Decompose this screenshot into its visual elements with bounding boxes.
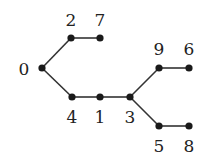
node-8 (185, 122, 192, 129)
node-label-6: 6 (184, 39, 195, 59)
node-label-9: 9 (154, 39, 165, 59)
node-0 (38, 64, 45, 71)
node-label-1: 1 (95, 107, 106, 127)
labels: 0274139658 (19, 10, 195, 156)
edges (42, 38, 189, 126)
node-4 (68, 93, 75, 100)
node-label-3: 3 (125, 107, 136, 127)
tree-diagram: 0274139658 (0, 0, 209, 158)
node-label-2: 2 (66, 10, 77, 30)
node-7 (96, 34, 103, 41)
node-1 (96, 93, 103, 100)
node-label-4: 4 (67, 107, 78, 127)
node-label-0: 0 (19, 59, 30, 79)
node-label-5: 5 (154, 136, 165, 156)
node-6 (185, 64, 192, 71)
node-3 (126, 93, 133, 100)
node-2 (67, 34, 74, 41)
edge-3-9 (130, 68, 159, 97)
node-5 (155, 122, 162, 129)
edge-0-4 (42, 68, 72, 97)
edge-0-2 (42, 38, 71, 68)
node-label-8: 8 (184, 136, 195, 156)
node-9 (155, 64, 162, 71)
node-label-7: 7 (95, 10, 106, 30)
